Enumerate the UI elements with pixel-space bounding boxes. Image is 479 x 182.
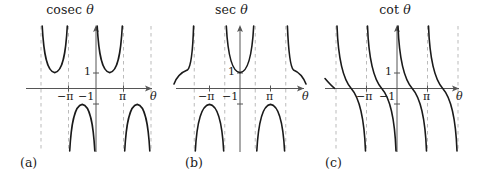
cosec-branch-4 bbox=[125, 104, 150, 151]
sec-branch-4 bbox=[287, 26, 306, 84]
subfigure-caption-a: (a) bbox=[20, 155, 37, 170]
panel-cot: cot θ bbox=[315, 0, 479, 182]
xtick-label-neg-pi-cosec: −π bbox=[57, 91, 73, 102]
xtick-label-pos-pi-sec: π bbox=[266, 91, 273, 102]
panel-cosec: cosec θ bbox=[0, 0, 160, 182]
ytick-label-one-sec: 1 bbox=[228, 66, 235, 77]
ytick-label-neg-one-sec: −1 bbox=[222, 91, 238, 102]
panel-sec: sec θ bbox=[160, 0, 315, 182]
x-axis-label-cosec: θ bbox=[150, 91, 157, 102]
xtick-label-pos-pi-cot: π bbox=[423, 91, 430, 102]
cosec-branch-1 bbox=[42, 26, 67, 73]
ytick-label-one-cot: 1 bbox=[385, 66, 392, 77]
x-axis-label-sec: θ bbox=[302, 91, 309, 102]
sec-branch-3 bbox=[257, 104, 285, 151]
xtick-label-pos-pi-cosec: π bbox=[119, 91, 126, 102]
xtick-label-neg-pi-sec: −π bbox=[198, 91, 214, 102]
sec-branch-0 bbox=[174, 26, 194, 84]
trig-reciprocal-figure: cosec θ bbox=[0, 0, 479, 182]
ytick-label-one-cosec: 1 bbox=[84, 66, 91, 77]
subfigure-caption-c: (c) bbox=[325, 155, 342, 170]
sec-branch-1 bbox=[195, 104, 223, 151]
cot-branch-0-tail bbox=[325, 79, 335, 89]
ytick-label-neg-one-cosec: −1 bbox=[78, 91, 94, 102]
subfigure-caption-b: (b) bbox=[185, 155, 203, 170]
x-axis-label-cot: θ bbox=[456, 91, 463, 102]
cosec-branch-3 bbox=[97, 26, 122, 73]
cosec-branch-2 bbox=[70, 104, 95, 151]
xtick-label-neg-pi-cot: −π bbox=[356, 91, 372, 102]
ytick-label-neg-one-cot: −1 bbox=[379, 91, 395, 102]
